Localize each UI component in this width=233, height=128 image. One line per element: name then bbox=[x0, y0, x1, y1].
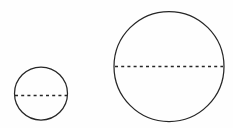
large-circle-group bbox=[114, 12, 224, 122]
large-circle bbox=[114, 12, 224, 122]
small-circle bbox=[15, 67, 68, 120]
two-circles-figure bbox=[0, 0, 233, 128]
small-circle-group bbox=[15, 67, 68, 120]
diagram-canvas bbox=[0, 0, 233, 128]
